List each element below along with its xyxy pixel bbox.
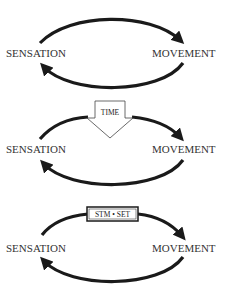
top-arrow-right-segment: [132, 117, 180, 137]
top-arrow-left-segment: [40, 117, 88, 139]
stm-set-loop-diagram: STM • SET SENSATION MOVEMENT: [6, 207, 216, 282]
basic-loop-diagram: SENSATION MOVEMENT: [6, 19, 216, 87]
sensation-label: SENSATION: [6, 242, 66, 254]
top-arrow-right-segment: [138, 214, 182, 236]
bottom-arrow-movement-to-sensation: [44, 160, 183, 185]
time-label: TIME: [101, 108, 120, 117]
bottom-arrow-movement-to-sensation: [44, 257, 183, 282]
diagram-canvas: SENSATION MOVEMENT TIME SENSATION MOVEME…: [0, 0, 227, 290]
bottom-arrow-movement-to-sensation: [44, 63, 183, 88]
time-loop-diagram: TIME SENSATION MOVEMENT: [6, 101, 216, 185]
top-arrow-left-segment: [42, 214, 88, 235]
movement-label: MOVEMENT: [152, 47, 216, 59]
stm-set-label: STM • SET: [95, 210, 131, 219]
movement-label: MOVEMENT: [152, 143, 216, 155]
sensation-label: SENSATION: [6, 47, 66, 59]
top-arrow-sensation-to-movement: [40, 19, 180, 43]
time-block-arrow-icon: [87, 101, 133, 138]
movement-label: MOVEMENT: [152, 242, 216, 254]
sensation-label: SENSATION: [6, 143, 66, 155]
